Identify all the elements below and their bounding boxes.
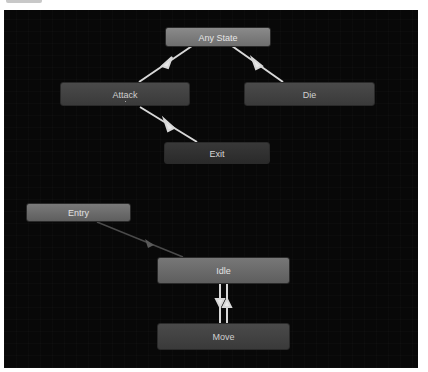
state-any-state[interactable]: Any State (165, 27, 271, 47)
state-move[interactable]: Move (157, 323, 290, 350)
state-label: Move (212, 332, 234, 342)
transition-idle-move[interactable] (216, 283, 224, 323)
state-label: Any State (198, 33, 237, 43)
transition-move-idle[interactable] (223, 283, 231, 323)
state-label: Idle (216, 266, 231, 276)
transition-entry-idle[interactable] (97, 222, 183, 257)
transition-edges (0, 0, 428, 372)
transition-anystate-die[interactable] (232, 46, 283, 82)
state-label: Exit (209, 149, 224, 159)
arrow-icon (162, 57, 172, 68)
state-attack[interactable]: Attack (60, 82, 190, 106)
transition-attack-exit[interactable] (140, 107, 197, 142)
state-label: Entry (68, 208, 89, 218)
state-label: Die (303, 90, 317, 100)
arrow-icon (145, 239, 154, 248)
state-entry[interactable]: Entry (26, 203, 131, 222)
state-die[interactable]: Die (244, 82, 375, 106)
arrow-icon (164, 119, 174, 131)
arrow-icon (252, 58, 262, 69)
state-idle[interactable]: Idle (157, 257, 290, 284)
state-label: Attack (112, 90, 137, 100)
progress-dot (125, 101, 126, 102)
state-exit[interactable]: Exit (164, 142, 270, 164)
transition-anystate-attack[interactable] (139, 46, 192, 82)
